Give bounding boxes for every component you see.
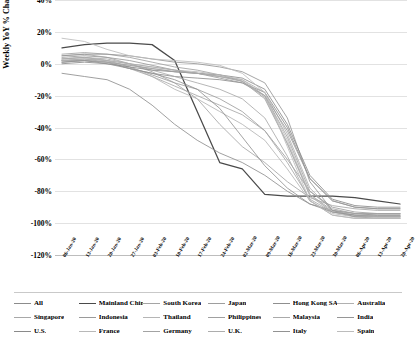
legend-swatch-icon (208, 303, 225, 304)
legend-label: Hong Kong SAR (293, 299, 338, 307)
legend-swatch-icon (273, 331, 290, 332)
legend-label: Mainland China (99, 299, 144, 307)
legend-swatch-icon (14, 331, 31, 332)
legend-item-japan[interactable]: Japan (208, 299, 273, 307)
legend-swatch-icon (143, 317, 160, 318)
legend-item-italy[interactable]: Italy (273, 327, 338, 335)
legend-swatch-icon (79, 303, 96, 304)
series-line (62, 62, 400, 207)
legend-swatch-icon (273, 303, 290, 304)
legend-swatch-icon (143, 331, 160, 332)
legend-label: U.S. (34, 327, 46, 335)
y-tick-8: -120% (8, 251, 52, 260)
legend-label: Indonesia (99, 313, 128, 321)
y-tick-2: 0% (8, 59, 52, 68)
legend-item-spain[interactable]: Spain (337, 327, 402, 335)
y-tick-6: -80% (8, 187, 52, 196)
legend-label: Philippines (228, 313, 261, 321)
series-line (62, 59, 400, 217)
legend-swatch-icon (14, 317, 31, 318)
legend-item-indonesia[interactable]: Indonesia (79, 313, 144, 321)
legend-item-germany[interactable]: Germany (143, 327, 208, 335)
legend-label: Malaysia (293, 313, 320, 321)
legend-swatch-icon (273, 317, 290, 318)
legend-swatch-icon (337, 331, 354, 332)
series-line (62, 43, 400, 204)
series-line (62, 59, 400, 218)
y-axis-tick-labels: 40%20%0%-20%-40%-60%-80%-100%-120% (0, 0, 52, 255)
chart-legend: AllMainland ChinaSouth KoreaJapanHong Ko… (14, 292, 402, 345)
legend-item-singapore[interactable]: Singapore (14, 313, 79, 321)
series-line (62, 73, 400, 215)
legend-label: Germany (163, 327, 191, 335)
legend-swatch-icon (14, 303, 31, 304)
series-lines (55, 0, 407, 255)
legend-swatch-icon (337, 317, 354, 318)
legend-swatch-icon (79, 317, 96, 318)
series-line (62, 61, 400, 209)
legend-item-philippines[interactable]: Philippines (208, 313, 273, 321)
legend-item-malaysia[interactable]: Malaysia (273, 313, 338, 321)
legend-swatch-icon (337, 303, 354, 304)
legend-item-mainland-china[interactable]: Mainland China (79, 299, 144, 307)
series-line (62, 61, 400, 216)
legend-label: Spain (357, 327, 374, 335)
legend-label: Italy (293, 327, 307, 335)
legend-item-thailand[interactable]: Thailand (143, 313, 208, 321)
series-line (62, 61, 400, 217)
legend-item-u-k[interactable]: U.K. (208, 327, 273, 335)
y-tick-5: -60% (8, 155, 52, 164)
y-tick-0: 40% (8, 0, 52, 5)
legend-label: Japan (228, 299, 246, 307)
legend-item-hong-kong-sar[interactable]: Hong Kong SAR (273, 299, 338, 307)
y-tick-7: -100% (8, 219, 52, 228)
legend-label: South Korea (163, 299, 201, 307)
legend-swatch-icon (208, 331, 225, 332)
legend-label: Singapore (34, 313, 64, 321)
legend-label: India (357, 313, 373, 321)
legend-swatch-icon (208, 317, 225, 318)
series-line (62, 61, 400, 214)
x-axis-tick-labels: 06-Jan-2013-Jan-2020-Jan-2027-Jan-2003-F… (55, 255, 407, 295)
legend-item-all[interactable]: All (14, 299, 79, 307)
legend-swatch-icon (143, 303, 160, 304)
legend-label: Thailand (163, 313, 190, 321)
legend-item-australia[interactable]: Australia (337, 299, 402, 307)
legend-item-india[interactable]: India (337, 313, 402, 321)
legend-item-u-s[interactable]: U.S. (14, 327, 79, 335)
legend-item-france[interactable]: France (79, 327, 144, 335)
grid-and-series (55, 0, 407, 255)
legend-row-0: AllMainland ChinaSouth KoreaJapanHong Ko… (14, 297, 402, 309)
y-tick-3: -20% (8, 91, 52, 100)
legend-row-2: U.S.FranceGermanyU.K.ItalySpain (14, 325, 402, 337)
y-tick-1: 20% (8, 27, 52, 36)
y-tick-4: -40% (8, 123, 52, 132)
legend-label: All (34, 299, 43, 307)
legend-label: U.K. (228, 327, 242, 335)
legend-label: Australia (357, 299, 385, 307)
legend-item-south-korea[interactable]: South Korea (143, 299, 208, 307)
plot-area: Weekly YoY % Change 40%20%0%-20%-40%-60%… (0, 0, 414, 255)
legend-label: France (99, 327, 120, 335)
legend-row-1: SingaporeIndonesiaThailandPhilippinesMal… (14, 311, 402, 323)
legend-swatch-icon (79, 331, 96, 332)
